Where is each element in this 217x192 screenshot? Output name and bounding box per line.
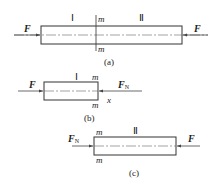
- segment-label-c: Ⅱ: [133, 126, 138, 136]
- section-label-bottom-b: m: [92, 101, 99, 110]
- force-label-left-b: F: [29, 80, 36, 90]
- segment-label-b: Ⅰ: [75, 72, 78, 82]
- segment-label-1-a: Ⅰ: [71, 13, 74, 23]
- section-label-bottom-a: m: [98, 45, 105, 54]
- force-label-left-a: F: [24, 24, 31, 34]
- segment-label-2-a: Ⅱ: [139, 13, 144, 23]
- axis-label-x-b: x: [107, 96, 111, 105]
- section-label-bottom-c: m: [96, 156, 103, 165]
- panel-a-graphics: [14, 15, 208, 51]
- section-label-top-a: m: [98, 15, 105, 24]
- force-label-right-c: F: [188, 134, 195, 144]
- caption-c: (c): [129, 169, 139, 178]
- section-label-top-c: m: [96, 128, 103, 137]
- internal-force-label-b: FN: [118, 80, 129, 90]
- caption-b: (b): [84, 114, 95, 123]
- force-label-right-a: F: [194, 24, 201, 34]
- section-label-top-b: m: [92, 73, 99, 82]
- internal-force-label-c: FN: [68, 134, 79, 144]
- panel-c-graphics: [72, 137, 200, 155]
- caption-a: (a): [104, 58, 114, 67]
